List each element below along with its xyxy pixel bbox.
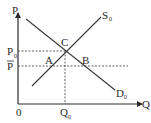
x-axis-label: Q [142, 98, 150, 110]
q0-label: Q [60, 106, 68, 118]
point-a-label: A [45, 54, 53, 66]
demand-subscript: 0 [124, 94, 127, 100]
supply-demand-diagram: P Q 0 S 0 D 0 P 0 P Q 0 C A B [0, 0, 151, 123]
p0-subscript: 0 [14, 53, 17, 59]
supply-subscript: 0 [109, 16, 112, 22]
y-axis-label: P [12, 4, 18, 16]
pbar-label: P [7, 60, 13, 72]
q0-subscript: 0 [68, 114, 71, 120]
point-b-label: B [82, 54, 89, 66]
point-c-label: C [61, 36, 68, 48]
supply-label: S [102, 9, 108, 21]
p0-label: P [7, 45, 13, 57]
demand-label: D [116, 87, 124, 99]
origin-label: 0 [16, 106, 22, 118]
